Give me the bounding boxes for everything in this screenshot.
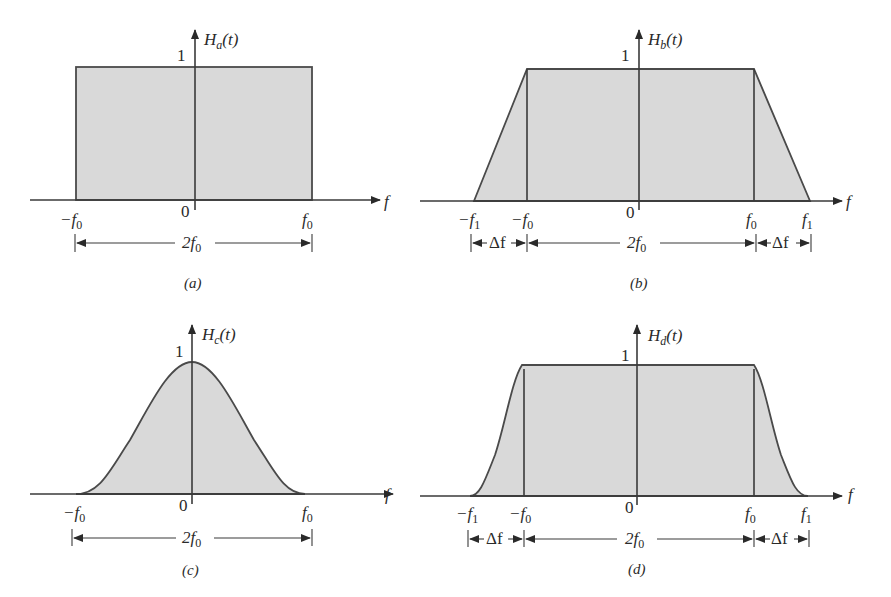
y-label-c: Hc(t)	[201, 325, 236, 347]
caption-a: (a)	[184, 275, 202, 292]
origin-d: 0	[625, 498, 634, 517]
x-label-a: f	[384, 192, 391, 211]
delta-label-right-d: Δf	[771, 529, 788, 548]
origin-b: 0	[626, 203, 635, 222]
span-label-a: 2f0	[182, 233, 201, 255]
x-label-b: f	[846, 192, 853, 211]
delta-label-left-d: Δf	[486, 529, 503, 548]
span-label-c: 2f0	[182, 528, 201, 550]
raised-cosine-response-c	[76, 362, 305, 494]
tick-neg-f0-d: −f0	[509, 504, 531, 526]
caption-c: (c)	[182, 562, 199, 579]
trapezoid-response-b	[474, 69, 810, 201]
delta-label-left-b: Δf	[489, 233, 506, 252]
y-label-d: Hd(t)	[647, 326, 683, 348]
span-label-d: 2f0	[625, 529, 644, 551]
tick-neg-f1-b: −f1	[458, 210, 480, 232]
y-tick-1-b: 1	[621, 46, 630, 65]
delta-label-right-b: Δf	[772, 233, 789, 252]
panel-c: Hc(t) 1 f 0 −f0 f0 2f0 (c)	[30, 325, 393, 579]
tick-f1-d: f1	[801, 504, 812, 526]
x-label-d: f	[848, 485, 855, 504]
tick-neg-f0-b: −f0	[511, 210, 533, 232]
tick-neg-f0-a: −f0	[60, 210, 82, 232]
tick-f1-b: f1	[802, 210, 813, 232]
filter-diagrams: Ha(t) 1 f 0 −f0 f0 2f0 (a) Hb(t) 1 f 0 −…	[0, 0, 891, 597]
rolloff-response-d	[470, 365, 808, 496]
tick-neg-f1-d: −f1	[456, 504, 478, 526]
y-label-a: Ha(t)	[203, 30, 239, 52]
panel-d: Hd(t) 1 f 0 −f1 −f0 f0 f1 Δf 2f0 Δf (d)	[420, 325, 855, 578]
tick-f0-b: f0	[746, 210, 757, 232]
origin-c: 0	[179, 496, 188, 515]
panel-b: Hb(t) 1 f 0 −f1 −f0 f0 f1 Δf 2f0 Δf (b)	[420, 30, 853, 292]
y-tick-1-d: 1	[621, 346, 630, 365]
caption-b: (b)	[630, 275, 648, 292]
tick-neg-f0-c: −f0	[63, 503, 85, 525]
y-label-b: Hb(t)	[647, 30, 683, 52]
y-tick-1-a: 1	[177, 46, 186, 65]
origin-a: 0	[181, 202, 190, 221]
tick-f0-a: f0	[302, 210, 313, 232]
span-label-b: 2f0	[627, 233, 646, 255]
y-tick-1-c: 1	[175, 342, 184, 361]
rect-response-a	[76, 67, 312, 200]
caption-d: (d)	[628, 561, 646, 578]
tick-f0-c: f0	[302, 503, 313, 525]
tick-f0-d: f0	[745, 504, 756, 526]
panel-a: Ha(t) 1 f 0 −f0 f0 2f0 (a)	[30, 30, 391, 292]
